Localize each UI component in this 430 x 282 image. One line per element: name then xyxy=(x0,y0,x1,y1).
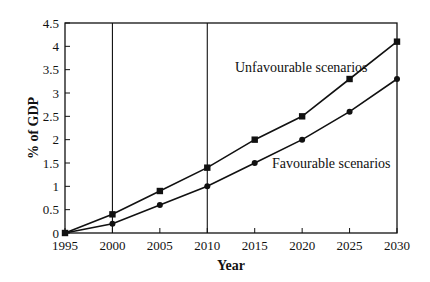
square-marker xyxy=(157,188,163,194)
x-tick-label: 2005 xyxy=(147,238,173,253)
y-tick-label: 4 xyxy=(53,39,60,54)
square-marker xyxy=(252,136,258,142)
y-tick-label: 2 xyxy=(53,132,60,147)
annotation-unfavourable: Unfavourable scenarios xyxy=(235,60,368,75)
x-tick-label: 2030 xyxy=(384,238,410,253)
x-axis: 19952000200520102015202020252030 xyxy=(52,228,410,253)
circle-marker xyxy=(109,221,115,227)
x-tick-label: 2010 xyxy=(194,238,220,253)
y-axis: 00.511.522.533.544.5 xyxy=(43,16,70,241)
circle-marker xyxy=(157,202,163,208)
circle-marker xyxy=(62,230,68,236)
square-marker xyxy=(109,211,115,217)
x-tick-label: 2000 xyxy=(99,238,125,253)
y-axis-title: % of GDP xyxy=(26,96,41,159)
reference-lines xyxy=(112,23,207,233)
plot-frame xyxy=(65,23,397,233)
x-tick-label: 2015 xyxy=(242,238,268,253)
y-tick-label: 3 xyxy=(53,86,60,101)
y-tick-label: 0.5 xyxy=(43,202,59,217)
x-tick-label: 1995 xyxy=(52,238,78,253)
line-chart: 00.511.522.533.544.5 1995200020052010201… xyxy=(0,0,430,282)
circle-marker xyxy=(394,76,400,82)
square-marker xyxy=(204,164,210,170)
square-marker xyxy=(346,76,352,82)
annotation-favourable: Favourable scenarios xyxy=(272,156,391,171)
x-tick-label: 2025 xyxy=(337,238,363,253)
y-tick-label: 3.5 xyxy=(43,62,59,77)
square-marker xyxy=(394,38,400,44)
y-tick-label: 1 xyxy=(53,179,60,194)
x-tick-label: 2020 xyxy=(289,238,315,253)
y-tick-label: 1.5 xyxy=(43,156,59,171)
y-tick-label: 4.5 xyxy=(43,16,59,31)
y-tick-label: 2.5 xyxy=(43,109,59,124)
circle-marker xyxy=(347,109,353,115)
circle-marker xyxy=(252,160,258,166)
x-axis-title: Year xyxy=(217,258,245,273)
circle-marker xyxy=(204,183,210,189)
square-marker xyxy=(299,113,305,119)
circle-marker xyxy=(299,137,305,143)
